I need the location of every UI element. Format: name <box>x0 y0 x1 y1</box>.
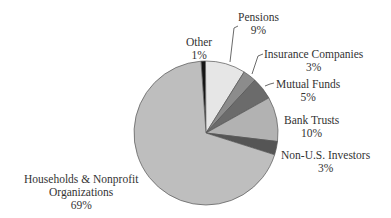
label-bank: Bank Trusts 10% <box>284 114 339 140</box>
label-insurance-pct: 3% <box>264 61 363 74</box>
label-nonus: Non-U.S. Investors 3% <box>281 149 370 175</box>
label-mutual: Mutual Funds 5% <box>276 78 340 104</box>
label-other-pct: 1% <box>186 49 212 62</box>
label-households: Households & Nonprofit Organizations 69% <box>24 173 138 212</box>
label-insurance-name: Insurance Companies <box>264 48 363 61</box>
label-bank-pct: 10% <box>284 127 339 140</box>
label-mutual-pct: 5% <box>276 91 340 104</box>
label-bank-name: Bank Trusts <box>284 114 339 127</box>
label-nonus-pct: 3% <box>281 162 370 175</box>
label-households-line1: Households & Nonprofit <box>24 173 138 186</box>
label-other-name: Other <box>186 36 212 49</box>
label-pensions: Pensions 9% <box>238 11 279 37</box>
label-nonus-name: Non-U.S. Investors <box>281 149 370 162</box>
label-pensions-name: Pensions <box>238 11 279 24</box>
label-households-pct: 69% <box>24 199 138 212</box>
label-pensions-pct: 9% <box>238 24 279 37</box>
label-households-line2: Organizations <box>24 186 138 199</box>
label-other: Other 1% <box>186 36 212 62</box>
label-mutual-name: Mutual Funds <box>276 78 340 91</box>
label-insurance: Insurance Companies 3% <box>264 48 363 74</box>
